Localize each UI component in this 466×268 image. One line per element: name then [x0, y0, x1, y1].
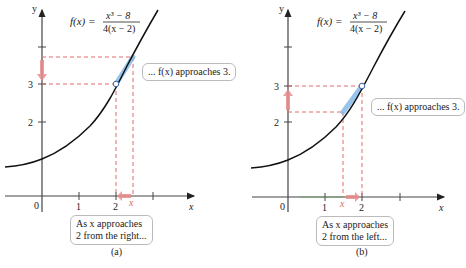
y-tick-2: 2 — [28, 117, 33, 128]
open-circle — [113, 81, 119, 87]
panel-a: y x 3 2 0 1 2 x f(x) = x³ − 8 4(x − 2) — [5, 3, 194, 212]
formula-denominator: 4(x − 2) — [103, 23, 135, 35]
x-tick-1: 1 — [76, 201, 81, 212]
formula-numerator: x³ − 8 — [105, 10, 130, 21]
moving-x-label: x — [339, 198, 345, 209]
callout-fx-approaches-a: ... f(x) approaches 3. — [142, 63, 236, 81]
formula-numerator: x³ − 8 — [352, 10, 377, 21]
callout-line-2: 2 from the left... — [322, 231, 388, 243]
arrow-x-right — [346, 192, 360, 202]
x-axis-label: x — [188, 201, 194, 212]
arrow-y-up — [283, 89, 293, 110]
function-label: f(x) = — [70, 15, 95, 28]
function-label: f(x) = — [317, 15, 342, 28]
highlight-segment — [343, 86, 362, 112]
callout-line-1: As x approaches — [322, 219, 388, 231]
tick-marks — [284, 47, 400, 201]
formula-denominator: 4(x − 2) — [350, 23, 382, 35]
x-tick-1: 1 — [322, 202, 327, 213]
moving-x-label: x — [128, 197, 134, 208]
callout-line-2: 2 from the right... — [76, 230, 147, 242]
x-tick-2: 2 — [113, 201, 118, 212]
callout-x-approaches-b: As x approaches 2 from the left... — [316, 216, 394, 246]
x-tick-0: 0 — [280, 201, 285, 212]
y-tick-2: 2 — [274, 117, 279, 128]
open-circle — [359, 83, 365, 89]
x-tick-0: 0 — [34, 200, 39, 211]
y-axis-label: y — [279, 3, 284, 14]
callout-fx-approaches-b: ... f(x) approaches 3. — [371, 98, 465, 116]
y-tick-3: 3 — [28, 79, 33, 90]
y-axis-label: y — [32, 3, 37, 14]
callout-x-approaches-a: As x approaches 2 from the right... — [70, 215, 153, 245]
y-tick-3: 3 — [274, 81, 279, 92]
x-tick-2: 2 — [359, 202, 364, 213]
caption-a: (a) — [111, 246, 122, 257]
x-axis-label: x — [438, 202, 444, 213]
callout-line-1: As x approaches — [76, 218, 147, 230]
tick-marks — [38, 47, 153, 200]
caption-b: (b) — [356, 246, 368, 257]
callout-text: ... f(x) approaches 3. — [377, 101, 459, 112]
arrow-y-down — [37, 60, 47, 81]
callout-text: ... f(x) approaches 3. — [148, 66, 230, 77]
